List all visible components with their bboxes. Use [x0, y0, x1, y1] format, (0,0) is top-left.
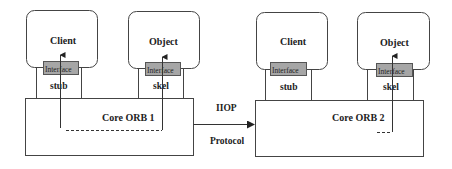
left-client-interface-label: Interface: [45, 65, 72, 74]
iiop-connector: IIOP Protocol: [194, 103, 255, 146]
left-object-interface-label: Interface: [147, 66, 174, 75]
core-orb-2-box: [256, 101, 424, 157]
right-orb-group: Core ORB 2 stub skel Client Object Inter…: [256, 13, 430, 157]
right-stub-label: stub: [280, 82, 297, 92]
right-skel-label: skel: [383, 82, 399, 92]
left-client-label: Client: [50, 35, 77, 46]
left-orb-group: Core ORB 1 stub skel Client Object Inter…: [26, 11, 200, 156]
core-orb-1-label: Core ORB 1: [102, 112, 155, 123]
iiop-label: IIOP: [216, 103, 237, 113]
left-skel-label: skel: [153, 81, 169, 91]
core-orb-2-label: Core ORB 2: [332, 112, 385, 123]
right-client-label: Client: [280, 36, 307, 47]
left-stub-label: stub: [50, 81, 67, 91]
right-object-interface-label: Interface: [378, 67, 405, 76]
right-object-label: Object: [380, 37, 410, 48]
core-orb-1-box: [26, 99, 194, 156]
corba-diagram: Core ORB 1 stub skel Client Object Inter…: [0, 0, 452, 169]
right-client-interface-label: Interface: [272, 66, 299, 75]
protocol-label: Protocol: [210, 136, 244, 146]
left-object-label: Object: [149, 36, 179, 47]
